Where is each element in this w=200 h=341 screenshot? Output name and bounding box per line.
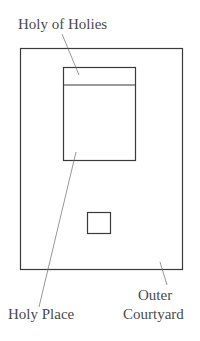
holy-of-holies-label: Holy of Holies xyxy=(18,16,107,32)
outer-courtyard-leader xyxy=(160,262,167,285)
sanctuary-rect xyxy=(64,68,136,161)
outer-courtyard-label-line1: Outer xyxy=(138,287,172,303)
holy-of-holies-leader xyxy=(62,34,79,75)
outer-courtyard-rect xyxy=(21,49,183,270)
altar-square xyxy=(88,213,111,234)
holy-place-leader xyxy=(39,152,76,307)
holy-place-label: Holy Place xyxy=(8,306,74,322)
outer-courtyard-label-line2: Courtyard xyxy=(123,306,184,322)
